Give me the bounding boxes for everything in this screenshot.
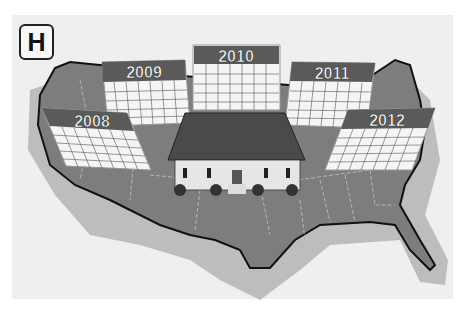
calendar-year-label: 2010 <box>218 48 254 65</box>
section-letter-badge: H <box>19 24 54 60</box>
house <box>168 113 305 196</box>
calendar-year-label: 2012 <box>369 112 405 129</box>
calendar-year-label: 2011 <box>315 65 350 82</box>
us-map-illustration: 2009 2010 2011 2008 <box>0 0 465 310</box>
calendar-year-label: 2009 <box>126 64 162 81</box>
calendar-year-label: 2008 <box>74 113 110 130</box>
